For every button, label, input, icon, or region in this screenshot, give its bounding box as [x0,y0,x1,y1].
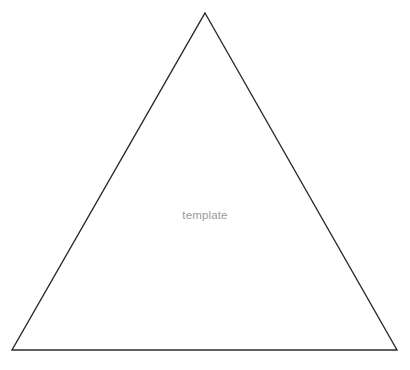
triangle-shape-svg [0,0,410,370]
triangle-outline [12,13,397,350]
triangle-center-label: template [0,209,410,221]
diagram-canvas: template [0,0,410,370]
